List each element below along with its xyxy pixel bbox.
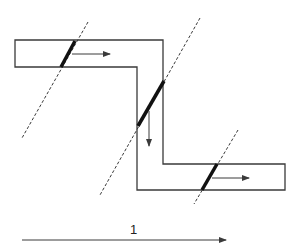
wavefront-2-thick-segment [138, 81, 164, 126]
wavefront-3-thick-segment [202, 164, 217, 190]
diagram-canvas: 1 [0, 0, 299, 250]
stepped-channel [15, 40, 285, 190]
wavefront-3 [194, 130, 249, 204]
wavefront-2 [100, 18, 200, 195]
direction-arrow: 1 [22, 222, 226, 240]
direction-label: 1 [130, 222, 137, 237]
